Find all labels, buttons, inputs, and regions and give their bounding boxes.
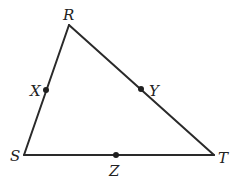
point-label-z: Z xyxy=(108,162,120,180)
triangle-diagram: R S T X Y Z xyxy=(0,0,239,182)
point-y xyxy=(138,86,144,92)
vertex-label-r: R xyxy=(62,6,74,24)
point-label-y: Y xyxy=(149,82,161,100)
vertex-label-t: T xyxy=(218,149,229,167)
point-label-x: X xyxy=(29,82,42,100)
vertex-label-s: S xyxy=(10,147,20,165)
point-z xyxy=(113,152,119,158)
point-x xyxy=(43,87,49,93)
